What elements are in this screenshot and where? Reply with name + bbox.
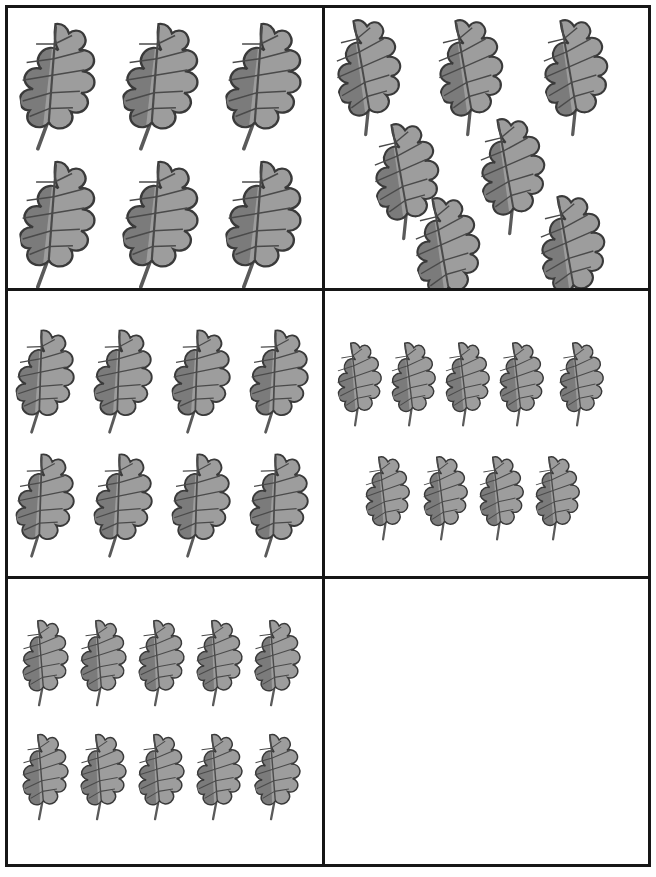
oak-leaf-icon — [216, 152, 322, 288]
oak-leaf-icon — [113, 14, 222, 154]
oak-leaf-icon — [10, 14, 119, 154]
leaf-group-box-3[interactable] — [8, 291, 322, 576]
leaf-group-box-1[interactable] — [8, 8, 322, 288]
oak-leaf-icon — [216, 14, 322, 154]
oak-leaf-icon — [162, 322, 251, 437]
leaf-group-box-5[interactable] — [8, 579, 322, 864]
leaf-group-box-4[interactable] — [325, 291, 648, 576]
leaf-group-box-6-empty[interactable] — [325, 579, 648, 864]
oak-leaf-icon — [8, 322, 94, 437]
leaf-group-box-2[interactable] — [325, 8, 648, 288]
oak-leaf-icon — [240, 446, 322, 561]
worksheet-page — [0, 0, 656, 877]
oak-leaf-icon — [84, 322, 173, 437]
oak-leaf-icon — [84, 446, 173, 561]
oak-leaf-icon — [10, 152, 119, 288]
oak-leaf-icon — [162, 446, 251, 561]
oak-leaf-icon — [545, 332, 624, 429]
oak-leaf-icon — [240, 322, 322, 437]
oak-leaf-icon — [8, 446, 94, 561]
oak-leaf-icon — [113, 152, 222, 288]
